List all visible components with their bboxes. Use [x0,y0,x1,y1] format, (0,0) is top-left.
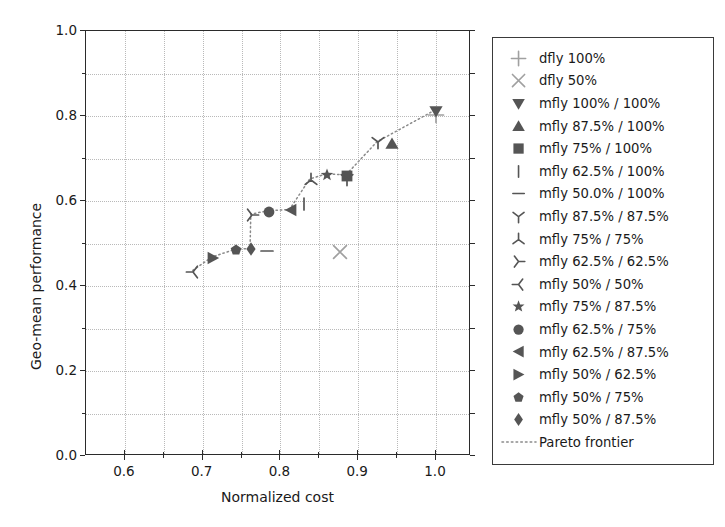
data-point [331,243,349,261]
legend-item[interactable]: mfly 62.5% / 100% [499,160,707,183]
gridline-horizontal [86,244,469,245]
data-point [258,242,276,260]
tick-y-major [80,370,85,371]
legend-marker-tri-left-icon [499,253,539,270]
legend-label: mfly 75% / 87.5% [539,299,656,314]
tick-y-minor-right [470,413,475,414]
legend-label: mfly 62.5% / 75% [539,322,656,337]
gridline-horizontal [86,116,469,117]
legend-item[interactable]: mfly 50% / 87.5% [499,409,707,432]
tick-y-major-right [470,200,475,201]
legend-item[interactable]: dfly 50% [499,70,707,93]
tick-y-major-right [470,115,475,116]
legend-item[interactable]: mfly 75% / 75% [499,228,707,251]
legend-item[interactable]: dfly 100% [499,47,707,70]
tick-x-major [357,455,358,460]
legend-label: mfly 75% / 100% [539,141,652,156]
tick-x-major-inner [357,450,358,455]
legend-label: mfly 62.5% / 87.5% [539,345,669,360]
data-point [242,240,260,258]
data-point [282,201,300,219]
legend-item[interactable]: mfly 50% / 62.5% [499,363,707,386]
data-point [184,263,202,281]
gridline-horizontal [86,74,469,75]
tick-y-major [80,30,85,31]
tick-y-minor-right [470,73,475,74]
legend-label: dfly 100% [539,51,605,66]
legend-item[interactable]: mfly 62.5% / 75% [499,318,707,341]
pareto-frontier-line [86,31,469,454]
legend-item[interactable]: mfly 75% / 87.5% [499,296,707,319]
legend-label: mfly 62.5% / 100% [539,164,665,179]
tick-x-major [279,455,280,460]
legend-item[interactable]: mfly 87.5% / 87.5% [499,205,707,228]
tick-x-major-inner [435,450,436,455]
gridline-vertical [125,31,126,454]
legend-marker-tri-down-icon [499,231,539,248]
legend-marker-pentagon-icon [499,389,539,406]
tick-x-major [202,455,203,460]
tick-y-major-right [470,455,475,456]
gridline-vertical [164,31,165,454]
data-point [302,171,320,189]
legend-label: mfly 100% / 100% [539,96,660,111]
data-point [260,203,278,221]
legend-item[interactable]: mfly 50.0% / 100% [499,183,707,206]
tick-x-major [435,455,436,460]
legend-item[interactable]: mfly 62.5% / 62.5% [499,250,707,273]
y-tick-label: 1.0 [39,22,77,38]
y-tick-label: 0.2 [39,362,77,378]
data-point [338,170,356,188]
gridline-vertical [280,31,281,454]
tick-x-major-inner [279,450,280,455]
legend-label: mfly 50% / 75% [539,390,644,405]
legend-label: dfly 50% [539,73,597,88]
legend-label: mfly 62.5% / 62.5% [539,254,669,269]
legend-marker-x-icon [499,72,539,89]
legend-item[interactable]: mfly 100% / 100% [499,92,707,115]
tick-y-major [80,115,85,116]
gridline-horizontal [86,329,469,330]
tick-x-minor-inner [396,452,397,457]
gridline-horizontal [86,159,469,160]
legend-marker-plus-icon [499,50,539,67]
legend-marker-triangle-left-icon [499,343,539,360]
x-tick-label: 0.6 [113,463,134,479]
y-tick-label: 0.4 [39,277,77,293]
y-tick-label: 0.0 [39,447,77,463]
data-point [318,166,336,184]
legend-label: mfly 50.0% / 100% [539,186,665,201]
tick-y-minor [82,413,85,414]
tick-y-minor-right [470,328,475,329]
tick-y-major [80,200,85,201]
gridline-vertical [319,31,320,454]
tick-y-major [80,285,85,286]
legend-marker-square-icon [499,140,539,157]
legend-item[interactable]: mfly 62.5% / 87.5% [499,341,707,364]
y-tick-label: 0.8 [39,107,77,123]
legend-marker-circle-icon [499,321,539,338]
legend-marker-triangle-up-icon [499,118,539,135]
legend-item[interactable]: mfly 50% / 75% [499,386,707,409]
legend-item[interactable]: Pareto frontier [499,431,707,454]
tick-x-major-inner [202,450,203,455]
legend-marker-triangle-down-icon [499,95,539,112]
legend-item[interactable]: mfly 75% / 100% [499,137,707,160]
legend-marker-tri-right-icon [499,276,539,293]
data-point [204,249,222,267]
x-tick-label: 0.7 [191,463,212,479]
tick-y-minor-right [470,243,475,244]
plot-area [85,30,470,455]
legend-box: dfly 100%dfly 50%mfly 100% / 100%mfly 87… [492,37,714,465]
data-point [369,133,387,151]
y-tick-label: 0.6 [39,192,77,208]
data-point [427,102,445,120]
legend-item[interactable]: mfly 50% / 50% [499,273,707,296]
legend-marker-triangle-right-icon [499,366,539,383]
tick-x-minor-inner [163,452,164,457]
legend-item[interactable]: mfly 87.5% / 100% [499,115,707,138]
legend-marker-star-icon [499,298,539,315]
legend-marker-diamond-icon [499,411,539,428]
tick-y-major-right [470,370,475,371]
x-axis-label: Normalized cost [85,489,470,505]
